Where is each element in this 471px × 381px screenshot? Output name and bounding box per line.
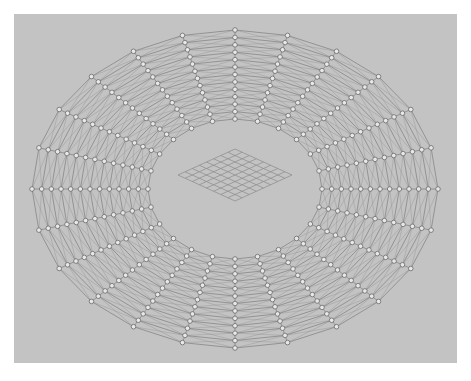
mesh-node [401, 151, 406, 156]
mesh-edge [285, 327, 336, 336]
mesh-node [367, 248, 372, 253]
mesh-edge [173, 239, 186, 257]
mesh-node [203, 276, 208, 281]
mesh-edge [273, 78, 313, 83]
mesh-edge [192, 314, 235, 326]
mesh-edge [192, 250, 213, 257]
mesh-node [233, 102, 238, 107]
mesh-edge [132, 189, 138, 211]
mesh-edge [138, 43, 185, 58]
mesh-edge [132, 270, 167, 282]
mesh-node [136, 55, 141, 60]
mesh-node [183, 40, 188, 45]
mesh-node [175, 107, 180, 112]
mesh-edge [123, 189, 129, 213]
mesh-node [325, 144, 330, 149]
mesh-node [117, 95, 122, 100]
mesh-edge [61, 154, 67, 189]
mesh-edge [76, 92, 112, 117]
mesh-edge [138, 189, 151, 207]
mesh-edge [151, 228, 160, 249]
mesh-edge [114, 163, 119, 189]
mesh-edge [235, 45, 283, 50]
mesh-edge [235, 328, 283, 333]
mesh-edge [235, 318, 280, 321]
mesh-node [205, 105, 210, 110]
mesh-edge [114, 189, 119, 215]
mesh-edge [105, 71, 148, 87]
mesh-edge [235, 78, 273, 82]
mesh-edge [104, 189, 109, 217]
mesh-node [233, 346, 238, 351]
mesh-node [275, 62, 280, 67]
mesh-node [130, 165, 135, 170]
mesh-node [305, 88, 310, 93]
mesh-node [294, 137, 299, 142]
mesh-edge [411, 230, 431, 268]
mesh-edge [235, 86, 270, 90]
mesh-edge [283, 244, 303, 256]
mesh-node [130, 106, 135, 111]
mesh-edge [283, 239, 296, 257]
mesh-node [233, 57, 238, 62]
mesh-edge [235, 30, 288, 35]
mesh-node [103, 289, 108, 294]
mesh-node [233, 316, 238, 321]
mesh-edge [332, 167, 338, 189]
mesh-edge [48, 150, 51, 189]
mesh-node [280, 326, 285, 331]
mesh-node [96, 294, 101, 299]
mesh-edge [210, 114, 235, 119]
mesh-node [233, 65, 238, 70]
mesh-edge [283, 122, 310, 129]
mesh-edge [265, 100, 288, 116]
mesh-edge [279, 239, 297, 250]
mesh-edge [328, 189, 331, 209]
mesh-edge [134, 43, 185, 52]
mesh-node [180, 113, 185, 118]
mesh-node [265, 283, 270, 288]
mesh-edge [76, 261, 105, 291]
mesh-canvas [14, 14, 457, 363]
mesh-edge [151, 134, 166, 150]
mesh-edge [114, 143, 135, 163]
mesh-edge [95, 219, 118, 243]
mesh-edge [153, 109, 177, 124]
mesh-node [286, 113, 291, 118]
mesh-node [387, 187, 392, 192]
mesh-node [419, 147, 424, 152]
mesh-node [358, 129, 363, 134]
mesh-node [310, 292, 315, 297]
mesh-node [275, 312, 280, 317]
mesh-edge [212, 257, 235, 259]
mesh-node [383, 118, 388, 123]
mesh-node [233, 72, 238, 77]
mesh-edge [399, 189, 403, 224]
mesh-edge [197, 296, 235, 300]
mesh-edge [235, 64, 278, 67]
mesh-edge [167, 122, 187, 134]
mesh-node [99, 126, 104, 131]
mesh-node [141, 312, 146, 317]
mesh-node [391, 220, 396, 225]
mesh-node [210, 119, 215, 124]
mesh-node [165, 94, 170, 99]
mesh-edge [377, 124, 384, 157]
mesh-node [392, 259, 397, 264]
mesh-edge [370, 159, 375, 189]
mesh-node [334, 49, 339, 54]
mesh-edge [158, 78, 198, 83]
mesh-node [96, 80, 101, 85]
mesh-edge [402, 228, 421, 265]
mesh-node [165, 279, 170, 284]
mesh-node [193, 304, 198, 309]
mesh-edge [288, 116, 317, 124]
mesh-node [198, 83, 203, 88]
mesh-node [141, 144, 146, 149]
mesh-edge [185, 335, 235, 348]
mesh-node [354, 161, 359, 166]
mesh-edge [148, 64, 192, 71]
mesh-node [315, 252, 320, 257]
mesh-edge [167, 244, 187, 256]
mesh-node [358, 187, 363, 192]
